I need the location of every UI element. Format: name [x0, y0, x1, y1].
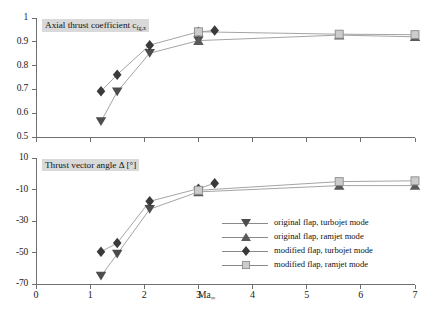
- figure-root: Axial thrust coefficient cfg,x 0.50.60.7…: [0, 0, 423, 315]
- data-point-marker-diamond: [242, 246, 250, 256]
- x-axis-label: Ma∞: [198, 290, 215, 300]
- x-axis-tick-label: 4: [246, 290, 260, 300]
- legend-label: modified flap, ramjet mode: [274, 259, 368, 270]
- y-axis-tick: [32, 221, 36, 222]
- x-axis-tick-label: 5: [300, 290, 314, 300]
- y-axis-tick: [32, 158, 36, 159]
- data-point-marker-square: [335, 178, 343, 186]
- data-point-marker-triangle-down: [112, 250, 123, 259]
- legend-marker-triangle-up: [239, 230, 253, 244]
- x-axis-tick-label: 1: [83, 290, 97, 300]
- x-axis-tick-label: 2: [137, 290, 151, 300]
- y-axis-line: [36, 158, 37, 285]
- data-point-marker-diamond: [97, 246, 106, 257]
- legend-marker-diamond: [239, 244, 253, 258]
- y-axis-tick-label: -30: [2, 216, 28, 226]
- legend-marker-square: [239, 258, 253, 272]
- legend-label: original flap, turbojet mode: [274, 217, 369, 228]
- legend-marker-triangle-down: [239, 216, 253, 230]
- y-axis-tick-label: -70: [2, 279, 28, 289]
- series-line: [198, 186, 415, 192]
- x-axis-tick-label: 0: [29, 290, 43, 300]
- x-axis-tick-label: 7: [408, 290, 422, 300]
- data-point-marker-square: [242, 261, 249, 268]
- legend-label: original flap, ramjet mode: [274, 231, 364, 242]
- y-axis-tick-label: -50: [2, 248, 28, 258]
- data-point-marker-triangle-up: [241, 233, 251, 241]
- data-point-marker-diamond: [210, 178, 219, 189]
- x-axis-line: [36, 284, 415, 285]
- y-axis-tick-label: -10: [2, 185, 28, 195]
- y-axis-tick-label: 10: [2, 153, 28, 163]
- legend-label: modified flap, turbojet mode: [274, 245, 373, 256]
- data-point-marker-square: [411, 177, 419, 185]
- y-axis-tick: [32, 252, 36, 253]
- x-axis-tick-label: 6: [354, 290, 368, 300]
- y-axis-tick: [32, 189, 36, 190]
- data-point-marker-triangle-down: [96, 272, 107, 281]
- data-point-marker-square: [194, 186, 202, 194]
- data-point-marker-triangle-down: [241, 219, 251, 227]
